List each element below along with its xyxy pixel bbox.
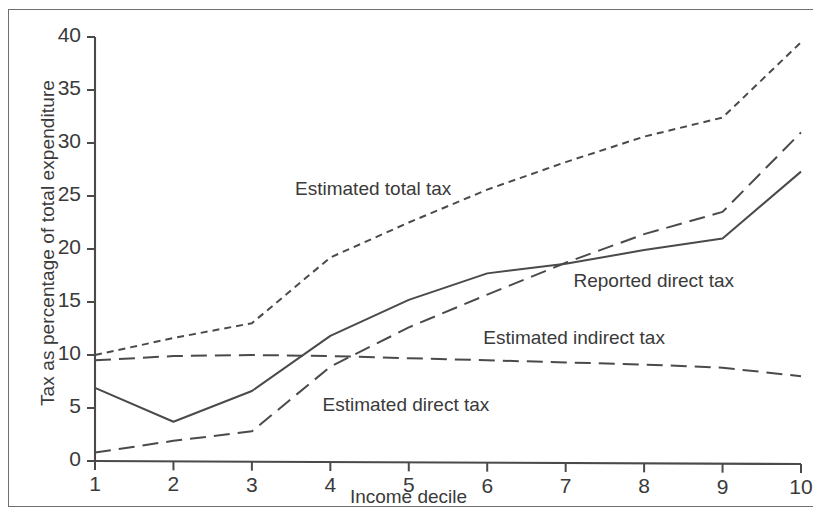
series-line-2	[95, 355, 801, 376]
x-tick-label: 10	[783, 475, 817, 499]
x-tick-label: 8	[626, 474, 662, 498]
x-tick-label: 7	[548, 474, 584, 498]
x-axis-line	[95, 461, 801, 464]
x-tick-label: 3	[234, 473, 270, 497]
y-tick-label: 10	[37, 341, 81, 365]
x-tick-label: 1	[77, 472, 113, 496]
series-label-0: Estimated total tax	[295, 178, 451, 200]
y-tick-label: 40	[37, 23, 81, 47]
y-tick-label: 20	[37, 235, 81, 259]
y-tick-label: 5	[37, 394, 81, 418]
y-tick-label: 35	[37, 76, 81, 100]
line-chart	[0, 0, 817, 521]
x-tick-label: 2	[155, 472, 191, 496]
y-tick-label: 0	[37, 447, 81, 471]
y-tick-label: 15	[37, 288, 81, 312]
figure: Tax as percentage of total expenditure I…	[0, 0, 817, 521]
x-tick-label: 5	[391, 473, 427, 497]
series-label-2: Estimated indirect tax	[483, 327, 665, 349]
y-tick-label: 30	[37, 129, 81, 153]
data-series-group	[95, 42, 801, 452]
x-tick-label: 6	[469, 474, 505, 498]
x-tick-label: 9	[705, 475, 741, 499]
series-label-3: Reported direct tax	[574, 270, 735, 292]
x-tick-label: 4	[312, 473, 348, 497]
y-tick-marks	[87, 37, 95, 461]
series-line-3	[95, 172, 801, 422]
y-tick-label: 25	[37, 182, 81, 206]
series-label-1: Estimated direct tax	[322, 394, 489, 416]
